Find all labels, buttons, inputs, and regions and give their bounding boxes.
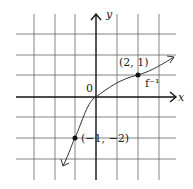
point-label-2-1: (2, 1) xyxy=(119,56,149,69)
origin-label: 0 xyxy=(86,82,93,95)
point-2-1 xyxy=(136,73,141,78)
point-label-neg1-neg2: (−1, −2) xyxy=(81,132,129,145)
y-axis-label: y xyxy=(105,8,113,21)
inverse-function-curve xyxy=(63,57,174,166)
point-neg1-neg2 xyxy=(73,136,78,141)
graph-canvas: y x 0 (2, 1) (−1, −2) f⁻¹ xyxy=(0,0,193,189)
curve-label: f⁻¹ xyxy=(145,77,159,90)
x-axis-label: x xyxy=(178,91,185,104)
graph-figure: y x 0 (2, 1) (−1, −2) f⁻¹ xyxy=(0,0,193,189)
